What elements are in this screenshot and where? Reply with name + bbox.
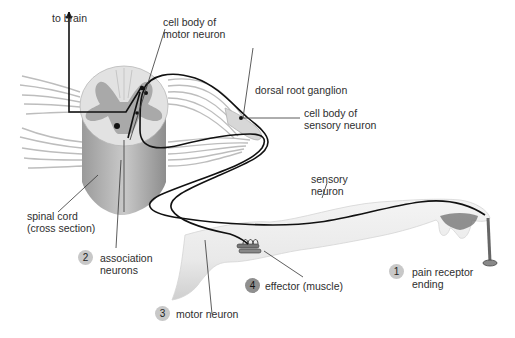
spinal-cord-label-line2: (cross section) [27,222,95,235]
step-badge-1: 1 [389,264,404,279]
left-nerve-roots [20,76,82,168]
spinal-cord-label-line1: spinal cord [27,210,78,223]
to-brain-label: to brain [52,12,87,25]
step-badge-3: 3 [155,306,170,321]
association-neurons-label-line2: neurons [100,264,138,277]
spinal-cord [80,66,168,215]
association-neurons-label-line1: association [100,252,153,265]
pain-receptor-tack [483,218,497,266]
step-badge-2: 2 [78,250,93,265]
cell-body-motor-label-line2: motor neuron [163,28,225,41]
motor-neuron-label: motor neuron [176,308,238,321]
dorsal-root-ganglion-label: dorsal root ganglion [255,84,347,97]
reflex-arc-diagram: to brain cell body of motor neuron dorsa… [0,0,515,338]
step-badge-4: 4 [245,278,260,293]
sensory-neuron-label-line1: sensory [311,173,348,186]
cell-body-motor-label-line1: cell body of [163,16,216,29]
pain-receptor-label-line1: pain receptor [412,266,473,279]
pain-receptor-label-line2: ending [412,278,444,291]
cell-body-sensory-label-line2: sensory neuron [304,119,376,132]
effector-label: effector (muscle) [265,280,343,293]
sensory-neuron-label-line2: neuron [311,185,344,198]
cell-body-sensory-label-line1: cell body of [304,107,357,120]
